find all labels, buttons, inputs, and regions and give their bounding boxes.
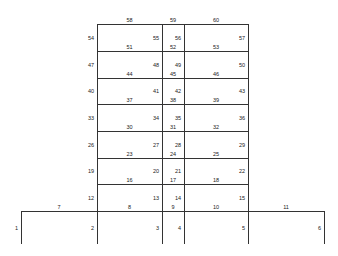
member-label: 4 (178, 225, 181, 231)
member-label: 44 (126, 71, 132, 77)
structural-frame-diagram: 1234567891011121314151617181920212223242… (0, 0, 338, 256)
member-label: 9 (171, 204, 174, 210)
member-label: 6 (318, 225, 321, 231)
member-label: 53 (213, 44, 219, 50)
member-label: 10 (213, 204, 219, 210)
member-label: 17 (170, 177, 176, 183)
member-label: 39 (213, 97, 219, 103)
member-label: 50 (239, 62, 245, 68)
member-label: 30 (126, 124, 132, 130)
member-label: 58 (126, 17, 132, 23)
member-label: 38 (170, 97, 176, 103)
member-label: 21 (175, 168, 181, 174)
member-label: 14 (175, 195, 181, 201)
member-label: 51 (126, 44, 132, 50)
member-label: 2 (91, 225, 94, 231)
member-label: 49 (175, 62, 181, 68)
member-label: 37 (126, 97, 132, 103)
member-label: 24 (170, 151, 176, 157)
member-label: 46 (213, 71, 219, 77)
member-label: 31 (170, 124, 176, 130)
member-label: 15 (239, 195, 245, 201)
member-label: 18 (213, 177, 219, 183)
member-label: 48 (153, 62, 159, 68)
member-label: 57 (239, 35, 245, 41)
member-label: 13 (153, 195, 159, 201)
member-label: 23 (126, 151, 132, 157)
member-label: 32 (213, 124, 219, 130)
member-label: 3 (156, 225, 159, 231)
member-label: 33 (88, 115, 94, 121)
member-label: 45 (170, 71, 176, 77)
member-label: 60 (213, 17, 219, 23)
member-label: 52 (170, 44, 176, 50)
member-label: 19 (88, 168, 94, 174)
member-label: 22 (239, 168, 245, 174)
member-label: 7 (57, 204, 60, 210)
member-label: 43 (239, 88, 245, 94)
member-label: 36 (239, 115, 245, 121)
member-label: 1 (15, 225, 18, 231)
member-label: 41 (153, 88, 159, 94)
member-label: 11 (283, 204, 289, 210)
member-label: 25 (213, 151, 219, 157)
member-label: 59 (170, 17, 176, 23)
member-label: 27 (153, 142, 159, 148)
member-label: 55 (153, 35, 159, 41)
member-label: 42 (175, 88, 181, 94)
member-label: 47 (88, 62, 94, 68)
member-label: 35 (175, 115, 181, 121)
member-label: 54 (88, 35, 94, 41)
member-label: 40 (88, 88, 94, 94)
member-label: 28 (175, 142, 181, 148)
member-label: 12 (88, 195, 94, 201)
member-label: 34 (153, 115, 159, 121)
member-label: 29 (239, 142, 245, 148)
member-label: 56 (175, 35, 181, 41)
member-label: 20 (153, 168, 159, 174)
member-label: 5 (242, 225, 245, 231)
member-label: 26 (88, 142, 94, 148)
member-label: 16 (126, 177, 132, 183)
member-label: 8 (128, 204, 131, 210)
